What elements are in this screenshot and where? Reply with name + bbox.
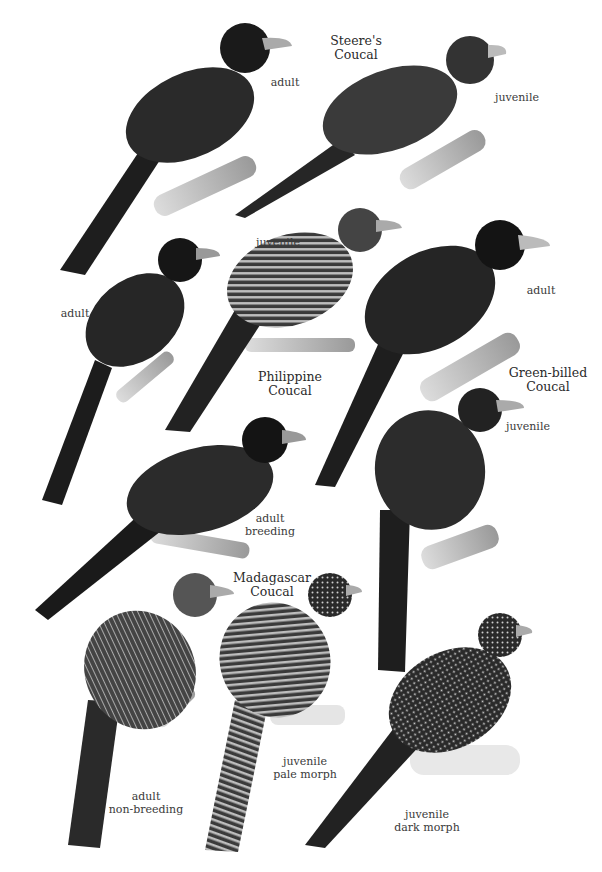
species-name-line: Coucal xyxy=(322,48,390,62)
label-philippine-juvenile: juvenile xyxy=(253,236,303,249)
label-line: juvenile xyxy=(270,755,340,768)
bird-illustrations xyxy=(0,0,602,872)
label-line: breeding xyxy=(240,525,300,538)
label-line: adult xyxy=(240,512,300,525)
label-green-billed-adult: adult xyxy=(526,284,556,297)
species-name-line: Steere's xyxy=(322,34,390,48)
species-name-line: Madagascar xyxy=(232,571,312,585)
label-steere-adult: adult xyxy=(270,76,300,89)
species-name-line: Coucal xyxy=(255,384,325,398)
label-madagascar-adult-nonbreeding: adult non-breeding xyxy=(108,790,184,816)
label-line: pale morph xyxy=(270,768,340,781)
coucal-illustration-plate: Steere's Coucal Philippine Coucal Green-… xyxy=(0,0,602,872)
species-name-line: Coucal xyxy=(506,380,590,394)
label-green-billed-juvenile: juvenile xyxy=(503,420,553,433)
species-name-line: Philippine xyxy=(255,370,325,384)
label-madagascar-juvenile-pale: juvenile pale morph xyxy=(270,755,340,781)
species-name-line: Green-billed xyxy=(506,366,590,380)
label-line: dark morph xyxy=(392,821,462,834)
steere-coucal-juvenile-bird xyxy=(235,36,506,218)
species-name-green-billed-coucal: Green-billed Coucal xyxy=(506,366,590,394)
label-line: juvenile xyxy=(392,808,462,821)
label-line: non-breeding xyxy=(108,803,184,816)
label-line: adult xyxy=(108,790,184,803)
label-madagascar-adult-breeding: adult breeding xyxy=(240,512,300,538)
species-name-madagascar-coucal: Madagascar Coucal xyxy=(232,571,312,599)
species-name-philippine-coucal: Philippine Coucal xyxy=(255,370,325,398)
species-name-line: Coucal xyxy=(232,585,312,599)
label-philippine-adult: adult xyxy=(60,307,90,320)
label-steere-juvenile: juvenile xyxy=(492,91,542,104)
label-madagascar-juvenile-dark: juvenile dark morph xyxy=(392,808,462,834)
species-name-steeres-coucal: Steere's Coucal xyxy=(322,34,390,62)
